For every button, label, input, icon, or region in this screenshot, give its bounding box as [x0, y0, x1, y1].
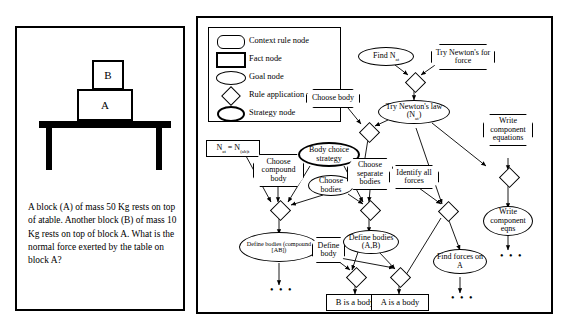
node-write-component-equations[interactable]: Write component equations — [483, 114, 533, 146]
node-label: Define body — [313, 242, 344, 259]
node-label: Try Newton's for force — [432, 49, 494, 66]
node-label: A is a body — [381, 298, 420, 307]
node-choose-separate-bodies[interactable]: Choose separate bodies — [347, 158, 393, 190]
node-fact-a-is-a-body[interactable]: A is a body — [371, 294, 429, 311]
node-label: Define bodies (compound [AB]) — [240, 241, 318, 254]
node-find-forces-on-a[interactable]: Find forces on A — [433, 249, 487, 274]
node-label: Try Newton's law (Nat) — [379, 103, 449, 121]
node-identify-all-forces[interactable]: Identify all forces — [389, 165, 439, 189]
node-label: Body choice strategy — [300, 146, 358, 163]
node-label: Identify all forces — [390, 169, 438, 186]
search-graph-panel: Context rule node Fact node Goal node Ru… — [196, 16, 553, 314]
node-try-newtons-law[interactable]: Try Newton's law (Nat) — [378, 100, 450, 124]
node-label: Write component eqns — [484, 208, 532, 233]
table-leg-right — [156, 128, 162, 170]
ellipsis-write-eqns: • • • — [500, 250, 523, 261]
ellipsis-define-compound: • • • — [270, 284, 293, 295]
node-label: Find Nat — [373, 52, 399, 62]
node-label: Write component equations — [484, 117, 532, 142]
table-leg-left — [46, 128, 52, 170]
ellipsis-find-forces: • • • — [451, 292, 474, 303]
node-write-component-eqns[interactable]: Write component eqns — [483, 206, 533, 236]
node-define-bodies-compound[interactable]: Define bodies (compound [AB]) — [239, 232, 319, 262]
node-define-bodies-ab[interactable]: Define bodies (A,B) — [343, 230, 399, 254]
node-label: Define bodies (A,B) — [344, 234, 398, 251]
node-label: Nat = N(ab)t — [216, 144, 249, 154]
node-label: Choose bodies — [309, 177, 353, 194]
node-label: Choose separate bodies — [348, 161, 392, 186]
node-fact-normal-force-equation[interactable]: Nat = N(ab)t — [206, 140, 260, 157]
block-b: B — [92, 60, 124, 90]
table-top — [39, 121, 171, 128]
node-label: Choose body — [312, 94, 354, 102]
problem-panel: B A A block (A) of mass 50 Kg rests on t… — [15, 26, 185, 311]
node-choose-compound-body[interactable]: Choose compound body — [253, 154, 304, 187]
node-label: Find forces on A — [434, 253, 486, 270]
node-label: Choose compound body — [254, 158, 303, 183]
node-define-body[interactable]: Define body — [312, 237, 345, 263]
node-label: B is a body — [336, 298, 375, 307]
node-find-n[interactable]: Find Nat — [358, 47, 414, 66]
node-try-newtons-for-force[interactable]: Try Newton's for force — [431, 44, 495, 70]
node-choose-body[interactable]: Choose body — [306, 89, 360, 108]
block-on-table-illustration: B A — [17, 34, 187, 184]
block-a: A — [77, 89, 133, 121]
problem-statement: A block (A) of mass 50 Kg rests on top o… — [28, 201, 180, 268]
